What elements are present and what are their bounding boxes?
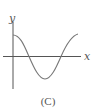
- x-axis-label: x: [84, 51, 90, 62]
- figure-caption: (C): [0, 95, 96, 107]
- graph-figure: y x (C): [0, 0, 96, 112]
- y-axis-label: y: [9, 13, 15, 24]
